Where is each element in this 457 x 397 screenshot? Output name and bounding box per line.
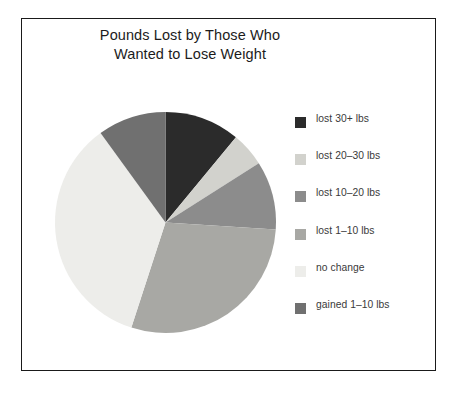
legend-item-label: gained 1–10 lbs — [316, 299, 389, 310]
legend-item-label: no change — [316, 262, 365, 273]
legend-item: lost 20–30 lbs — [295, 149, 425, 186]
legend-item-label: lost 20–30 lbs — [316, 150, 380, 161]
legend-item: gained 1–10 lbs — [295, 298, 425, 335]
chart-title: Pounds Lost by Those Who Wanted to Lose … — [40, 26, 340, 64]
pie-chart — [55, 112, 276, 333]
chart-legend: lost 30+ lbslost 20–30 lbslost 10–20 lbs… — [295, 112, 425, 335]
legend-swatch-icon — [295, 117, 306, 128]
legend-item: lost 30+ lbs — [295, 112, 425, 149]
legend-item: lost 10–20 lbs — [295, 186, 425, 223]
legend-swatch-icon — [295, 154, 306, 165]
legend-item: lost 1–10 lbs — [295, 224, 425, 261]
legend-swatch-icon — [295, 266, 306, 277]
legend-item-label: lost 10–20 lbs — [316, 187, 380, 198]
legend-item-label: lost 30+ lbs — [316, 113, 369, 124]
legend-swatch-icon — [295, 229, 306, 240]
legend-item: no change — [295, 261, 425, 298]
figure-canvas: Pounds Lost by Those Who Wanted to Lose … — [0, 0, 457, 397]
pie-svg — [55, 112, 276, 333]
legend-swatch-icon — [295, 191, 306, 202]
pie-slice-group — [55, 112, 276, 333]
legend-item-label: lost 1–10 lbs — [316, 225, 374, 236]
legend-swatch-icon — [295, 303, 306, 314]
